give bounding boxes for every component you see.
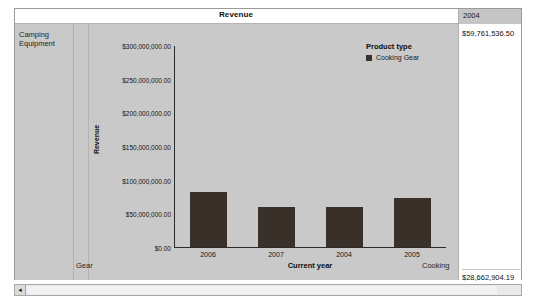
row-header-bottom-label: Gear <box>76 261 93 270</box>
scrollbar-thumb[interactable] <box>27 286 497 294</box>
x-tick-label: 2007 <box>268 251 284 258</box>
screenshot-root: Revenue 2004 Camping Equipment $59,761,5… <box>0 0 538 307</box>
scroll-left-glyph: ◄ <box>17 287 23 293</box>
chart-bottom-right-label: Cooking <box>422 261 450 270</box>
x-axis-title: Current year <box>174 261 446 270</box>
y-tick-label: $100,000,000.00 <box>122 177 171 184</box>
chart-region[interactable]: Revenue Product type Cooking Gear $0.00$… <box>74 24 458 280</box>
bar[interactable] <box>190 192 227 247</box>
x-tick-label: 2006 <box>200 251 216 258</box>
bar[interactable] <box>326 207 363 247</box>
value-cell-bottom: $28,662,904.19 <box>462 269 522 282</box>
chart-left-divider <box>88 24 89 280</box>
y-tick-label: $300,000,000.00 <box>122 43 171 50</box>
value-cell-top: $59,761,536.50 <box>462 29 514 38</box>
y-axis-line <box>174 46 175 248</box>
plot-area: $0.00$50,000,000.00$100,000,000.00$150,0… <box>174 46 446 248</box>
report-header-band: Revenue <box>15 9 521 24</box>
x-tick-label: 2004 <box>336 251 352 258</box>
bar[interactable] <box>394 198 431 247</box>
column-header-cell[interactable]: 2004 <box>458 9 521 24</box>
y-tick-label: $200,000,000.00 <box>122 110 171 117</box>
row-header-label: Camping Equipment <box>19 30 71 48</box>
x-tick-label: 2005 <box>404 251 420 258</box>
y-tick-label: $250,000,000.00 <box>122 76 171 83</box>
y-tick-label: $50,000,000.00 <box>126 211 171 218</box>
y-axis-title: Revenue <box>93 110 100 170</box>
y-tick-label: $0.00 <box>155 245 171 252</box>
crosstab-report-frame: Revenue 2004 Camping Equipment $59,761,5… <box>14 8 522 280</box>
row-header-column[interactable]: Camping Equipment <box>15 24 74 280</box>
x-axis-line <box>174 247 446 248</box>
horizontal-scrollbar[interactable]: ◄ <box>14 284 522 296</box>
scroll-left-arrow-icon[interactable]: ◄ <box>15 285 26 295</box>
value-column: $59,761,536.50 $28,662,904.19 <box>458 24 521 280</box>
measure-title: Revenue <box>15 10 457 19</box>
column-header-label: 2004 <box>463 11 480 20</box>
y-tick-label: $150,000,000.00 <box>122 144 171 151</box>
bar[interactable] <box>258 207 295 247</box>
